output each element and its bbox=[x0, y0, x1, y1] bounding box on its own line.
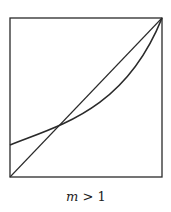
diagram-figure bbox=[0, 0, 171, 212]
convex-curve bbox=[10, 18, 162, 145]
caption-condition: > 1 bbox=[78, 189, 105, 204]
figure-caption: m > 1 bbox=[0, 189, 171, 204]
diagonal-line bbox=[10, 18, 162, 177]
caption-variable: m bbox=[66, 189, 78, 204]
